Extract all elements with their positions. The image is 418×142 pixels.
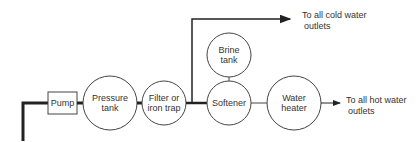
supply-pipe [23,103,48,141]
water-heater-label-line2: heater [267,103,321,113]
cold-outlets-label: To all cold water outlets [302,10,367,32]
brine-tank-label: Brine tank [207,45,251,65]
pressure-tank-label: Pressure tank [83,93,137,113]
cold-outlets-line2: outlets [302,21,367,32]
filter-label-line2: iron trap [142,103,186,113]
softener-label: Softener [207,98,251,108]
hot-outlets-label: To all hot water outlets [346,95,407,117]
filter-label: Filter or iron trap [142,93,186,113]
plumbing-flow-diagram: Pump Pressure tank Filter or iron trap B… [0,0,418,142]
brine-tank-label-line2: tank [207,55,251,65]
hot-outlets-line2: outlets [346,106,407,117]
pressure-tank-label-line2: tank [83,103,137,113]
filter-label-line1: Filter or [142,93,186,103]
brine-tank-label-line1: Brine [207,45,251,55]
pump-label: Pump [48,98,77,108]
pressure-tank-label-line1: Pressure [83,93,137,103]
hot-outlets-line1: To all hot water [346,95,407,106]
water-heater-label: Water heater [267,93,321,113]
cold-outlets-line1: To all cold water [302,10,367,21]
water-heater-label-line1: Water [267,93,321,103]
